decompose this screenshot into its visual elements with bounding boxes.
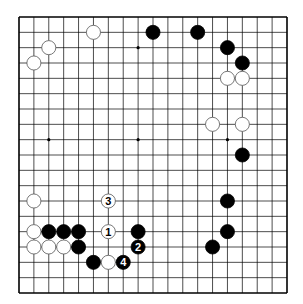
black-stone [131, 225, 145, 239]
black-stone [220, 41, 234, 55]
move-number: 1 [105, 226, 111, 238]
black-stone [57, 225, 71, 239]
white-stone [27, 194, 41, 208]
white-stone [42, 41, 56, 55]
white-stone [27, 225, 41, 239]
black-stone [235, 56, 249, 70]
white-stone [101, 255, 115, 269]
black-stone [146, 25, 160, 39]
go-board-diagram: 1234 [0, 0, 303, 304]
star-point [47, 138, 50, 141]
move-number: 4 [120, 256, 127, 268]
white-stone [86, 25, 100, 39]
black-stone [206, 240, 220, 254]
numbered-white-stone: 3 [101, 194, 115, 208]
black-stone [72, 225, 86, 239]
move-number: 2 [135, 241, 141, 253]
white-stone [235, 117, 249, 131]
white-stone [57, 240, 71, 254]
numbered-white-stone: 1 [101, 225, 115, 239]
black-stone [220, 194, 234, 208]
star-point [226, 138, 229, 141]
move-number: 3 [105, 195, 111, 207]
white-stone [27, 240, 41, 254]
black-stone [86, 255, 100, 269]
numbered-black-stone: 4 [116, 255, 130, 269]
white-stone [27, 56, 41, 70]
black-stone [220, 225, 234, 239]
white-stone [42, 240, 56, 254]
black-stone [191, 25, 205, 39]
black-stone [72, 240, 86, 254]
star-point [137, 46, 140, 49]
white-stone [235, 71, 249, 85]
star-point [137, 138, 140, 141]
white-stone [206, 117, 220, 131]
black-stone [42, 225, 56, 239]
numbered-black-stone: 2 [131, 240, 145, 254]
white-stone [220, 71, 234, 85]
black-stone [235, 148, 249, 162]
